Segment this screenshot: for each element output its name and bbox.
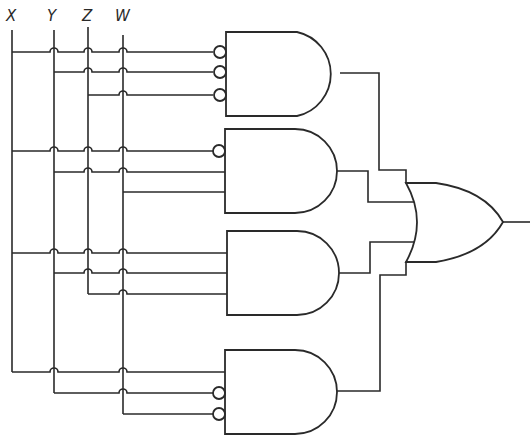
logic-circuit: X Y Z W (0, 0, 530, 448)
or-gate (406, 183, 530, 262)
and-gate-4 (213, 350, 337, 434)
input-label-x: X (5, 7, 17, 25)
input-label-y: Y (47, 7, 58, 25)
inverter-bubble (213, 387, 225, 399)
inverter-bubble (214, 66, 226, 78)
input-label-z: Z (81, 7, 93, 25)
inverter-bubble (213, 408, 225, 420)
input-wires (12, 48, 227, 414)
inverter-bubble (214, 46, 226, 58)
and-gate-3 (227, 231, 339, 315)
input-buses (12, 27, 123, 414)
and-output-wires (337, 73, 418, 391)
input-label-w: W (115, 7, 131, 25)
and-gate-1 (214, 32, 331, 116)
inverter-bubble (214, 89, 226, 101)
and-gate-2 (213, 129, 337, 213)
inverter-bubble (213, 145, 225, 157)
